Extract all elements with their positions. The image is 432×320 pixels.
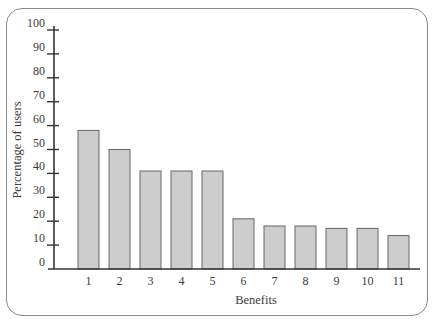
x-axis-title: Benefits: [235, 293, 277, 307]
x-tick-label: 5: [210, 274, 216, 288]
y-tick-label: 70: [33, 88, 45, 102]
bar-2: [109, 150, 130, 270]
y-axis-title: Percentage of users: [10, 101, 24, 198]
y-tick-label: 90: [33, 40, 45, 54]
bar-4: [171, 171, 192, 269]
x-tick-label: 9: [334, 274, 340, 288]
y-tick-label: 10: [33, 231, 45, 245]
x-tick-label: 4: [179, 274, 185, 288]
x-axis-tick-labels: 1234567891011: [86, 274, 405, 288]
bar-3: [140, 171, 161, 269]
bar-11: [388, 236, 409, 269]
y-tick-label: 80: [33, 64, 45, 78]
x-tick-label: 11: [393, 274, 405, 288]
bar-1: [78, 130, 99, 269]
bar-6: [233, 219, 254, 269]
x-tick-label: 6: [241, 274, 247, 288]
bars: [78, 130, 409, 269]
bar-7: [264, 226, 285, 269]
x-tick-label: 8: [303, 274, 309, 288]
y-tick-label: 50: [33, 136, 45, 150]
x-tick-label: 3: [148, 274, 154, 288]
y-tick-label: 100: [27, 16, 45, 30]
y-tick-label: 40: [33, 159, 45, 173]
x-tick-label: 10: [362, 274, 374, 288]
y-tick-label: 20: [33, 207, 45, 221]
y-tick-label: 30: [33, 183, 45, 197]
x-tick-label: 7: [272, 274, 278, 288]
bar-10: [357, 228, 378, 269]
y-tick-label: 60: [33, 112, 45, 126]
bar-5: [202, 171, 223, 269]
x-tick-label: 2: [117, 274, 123, 288]
bar-8: [295, 226, 316, 269]
y-tick-label: 0: [39, 255, 45, 269]
bar-chart: 0102030405060708090100 1234567891011 Ben…: [0, 0, 432, 320]
bar-9: [326, 228, 347, 269]
x-tick-label: 1: [86, 274, 92, 288]
